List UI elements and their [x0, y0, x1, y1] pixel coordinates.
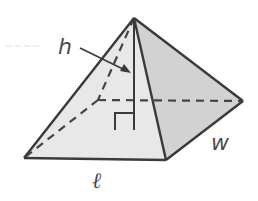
pyramid-figure [0, 0, 258, 201]
faint-background-text: ~~~~ [4, 40, 41, 53]
width-label: w [211, 132, 229, 154]
length-label: ℓ [92, 170, 101, 192]
height-label: h [58, 36, 72, 58]
